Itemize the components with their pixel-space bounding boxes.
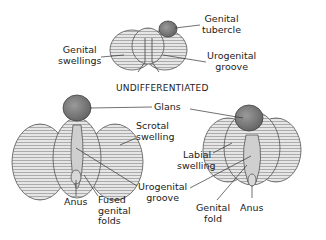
label-line: groove: [138, 193, 187, 204]
label-line: swellings: [58, 56, 101, 67]
label-genital-fold: Genital fold: [196, 203, 230, 224]
label-line: swelling: [136, 132, 175, 143]
label-labial-swelling: Labial swelling: [177, 150, 216, 171]
undifferentiated-stage: [101, 21, 206, 72]
label-line: Scrotal: [136, 121, 175, 132]
label-line: swelling: [177, 161, 216, 172]
heading-undifferentiated: UNDIFFERENTIATED: [116, 83, 209, 93]
label-urogenital-groove-female: Urogenital groove: [138, 182, 187, 203]
label-glans: Glans: [154, 102, 181, 113]
label-line: groove: [207, 62, 256, 73]
label-line: Fused: [98, 195, 131, 206]
label-anus-male: Anus: [64, 197, 88, 208]
label-line: Labial: [177, 150, 216, 161]
label-line: folds: [98, 216, 131, 227]
male-stage: [12, 95, 152, 200]
label-urogenital-groove-undiff: Urogenital groove: [207, 51, 256, 72]
label-genital-swellings: Genital swellings: [58, 45, 101, 66]
label-line: Urogenital: [207, 51, 256, 62]
label-fused-genital-folds: Fused genital folds: [98, 195, 131, 227]
label-line: fold: [196, 214, 230, 225]
label-scrotal-swelling: Scrotal swelling: [136, 121, 175, 142]
label-line: Genital: [196, 203, 230, 214]
label-genital-tubercle: Genital tubercle: [202, 14, 241, 35]
label-line: Genital: [58, 45, 101, 56]
label-line: Urogenital: [138, 182, 187, 193]
label-line: Genital: [202, 14, 241, 25]
label-anus-female: Anus: [240, 203, 264, 214]
label-line: tubercle: [202, 25, 241, 36]
